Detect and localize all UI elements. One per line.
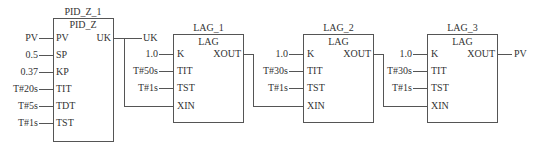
input-wire bbox=[159, 88, 173, 89]
input-wire bbox=[39, 123, 53, 124]
output-wire bbox=[498, 54, 512, 55]
block-type-name: LAG bbox=[303, 36, 374, 47]
input-value: T#5s bbox=[0, 100, 38, 111]
input-wire bbox=[413, 71, 427, 72]
input-value: 1.0 bbox=[120, 48, 158, 59]
input-value: T#30s bbox=[250, 65, 288, 76]
input-value: T#1s bbox=[250, 82, 288, 93]
connection-wire bbox=[383, 54, 384, 107]
pin-label: XIN bbox=[431, 100, 449, 111]
block-type-name: LAG bbox=[173, 36, 244, 47]
output-value: UK bbox=[143, 32, 157, 43]
pin-label: K bbox=[177, 48, 184, 59]
input-value: T#50s bbox=[120, 65, 158, 76]
input-value: 1.0 bbox=[378, 48, 412, 59]
input-value: T#1s bbox=[374, 82, 412, 93]
input-wire bbox=[39, 106, 53, 107]
input-wire bbox=[289, 71, 303, 72]
pin-label: K bbox=[307, 48, 314, 59]
input-wire bbox=[39, 55, 53, 56]
block-type-name: LAG bbox=[427, 36, 498, 47]
pin-label: TST bbox=[307, 82, 325, 93]
pin-label: TIT bbox=[431, 65, 447, 76]
input-wire bbox=[289, 88, 303, 89]
connection-wire bbox=[383, 106, 427, 107]
block-type-name: PID_Z bbox=[53, 19, 113, 30]
input-wire bbox=[159, 71, 173, 72]
connection-wire bbox=[253, 54, 254, 107]
pin-label: XOUT bbox=[335, 48, 371, 59]
pin-label: PV bbox=[56, 32, 69, 43]
pin-label: XOUT bbox=[459, 48, 495, 59]
pin-label: TIT bbox=[307, 65, 323, 76]
block-instance-name: LAG_2 bbox=[303, 22, 374, 33]
input-value: 0.5 bbox=[0, 49, 38, 60]
pin-label: K bbox=[431, 48, 438, 59]
input-value: PV bbox=[0, 32, 38, 43]
input-value: 1.0 bbox=[250, 48, 288, 59]
pin-label: XIN bbox=[177, 100, 195, 111]
connection-wire bbox=[124, 106, 173, 107]
input-value: 0.37 bbox=[0, 66, 38, 77]
pin-label: SP bbox=[56, 49, 67, 60]
input-value: T#1s bbox=[120, 82, 158, 93]
input-wire bbox=[289, 54, 303, 55]
input-wire bbox=[159, 54, 173, 55]
block-instance-name: LAG_1 bbox=[173, 22, 244, 33]
pin-label: TIT bbox=[177, 65, 193, 76]
output-wire bbox=[114, 38, 142, 39]
output-value: PV bbox=[514, 48, 527, 59]
pin-label: XIN bbox=[307, 100, 325, 111]
pin-label: KP bbox=[56, 66, 69, 77]
pin-label: TIT bbox=[56, 83, 72, 94]
input-wire bbox=[413, 54, 427, 55]
input-value: T#20s bbox=[0, 83, 38, 94]
input-wire bbox=[413, 88, 427, 89]
input-wire bbox=[39, 89, 53, 90]
pin-label: TST bbox=[177, 82, 195, 93]
pin-label: XOUT bbox=[205, 48, 241, 59]
block-instance-name: LAG_3 bbox=[427, 22, 498, 33]
input-wire bbox=[39, 72, 53, 73]
pin-label: TDT bbox=[56, 100, 75, 111]
input-wire bbox=[39, 38, 53, 39]
pin-label: TST bbox=[431, 82, 449, 93]
connection-wire bbox=[253, 106, 303, 107]
block-instance-name: PID_Z_1 bbox=[53, 6, 113, 17]
input-value: T#1s bbox=[0, 117, 38, 128]
pin-label: UK bbox=[80, 32, 111, 43]
pin-label: TST bbox=[56, 117, 74, 128]
input-value: T#30s bbox=[374, 65, 412, 76]
